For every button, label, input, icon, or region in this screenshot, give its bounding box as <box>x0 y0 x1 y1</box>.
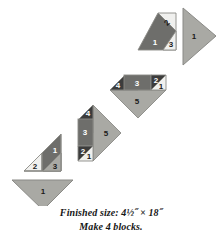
patch-label-1: 1 <box>41 187 46 196</box>
quilt-diagram-canvas: 1 2 1 3 <box>0 0 222 206</box>
patch-label-1: 1 <box>192 32 197 41</box>
patch-label-1: 1 <box>87 152 92 161</box>
patch-label-3: 3 <box>135 79 140 88</box>
unit-3-upper-middle: 4 3 2 1 5 <box>110 75 166 118</box>
figure-caption: Finished size: 4½˝ × 18˝ Make 4 blocks. <box>0 206 222 234</box>
patch-label-3: 3 <box>169 40 174 49</box>
unit-4-upper-right: 2 1 3 <box>138 13 176 50</box>
patch-label-1: 1 <box>159 82 164 91</box>
unit-1-lower-left: 2 1 3 <box>24 134 61 171</box>
unit-2-lower-middle: 4 3 2 1 5 <box>78 105 121 161</box>
patch-label-2: 2 <box>81 147 86 156</box>
unit-bottom-left-setting-triangle: 1 <box>12 180 73 206</box>
patch-label-3: 3 <box>53 162 58 171</box>
patch-label-2: 2 <box>33 162 38 171</box>
patch-triangle-1 <box>183 8 216 65</box>
patch-label-5: 5 <box>104 129 109 138</box>
patch-label-5: 5 <box>135 97 140 106</box>
patch-label-3: 3 <box>83 128 88 137</box>
patch-label-1: 1 <box>153 38 158 47</box>
caption-make-blocks: Make 4 blocks. <box>0 220 222 234</box>
unit-top-right-setting-triangle: 1 <box>183 8 216 65</box>
patch-label-1: 1 <box>53 146 58 155</box>
patch-label-4: 4 <box>86 109 91 118</box>
patch-label-4: 4 <box>116 81 121 90</box>
caption-finished-size: Finished size: 4½˝ × 18˝ <box>0 206 222 220</box>
quilt-assembly-diagram: 1 2 1 3 <box>0 0 222 246</box>
